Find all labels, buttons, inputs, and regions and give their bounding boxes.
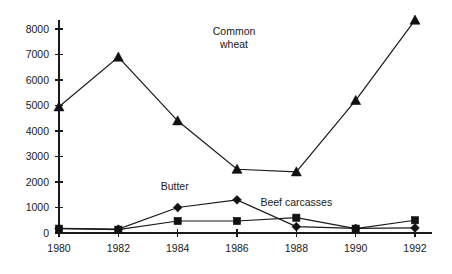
datapoint-beef-carcasses-1982 (115, 226, 122, 233)
series-annotations: CommonwheatButterBeef carcasses (161, 25, 333, 208)
butter-label: Butter (161, 180, 190, 192)
datapoint-beef-carcasses-1988 (293, 214, 300, 221)
x-tick-label-1988: 1988 (285, 242, 309, 254)
y-tick-label-8000: 8000 (26, 23, 50, 35)
y-tick-label-0: 0 (43, 227, 49, 239)
y-tick-label-3000: 3000 (26, 150, 50, 162)
y-axis-ticks: 010002000300040005000600070008000 (26, 23, 63, 239)
datapoint-butter-1988 (292, 222, 301, 231)
x-tick-label-1984: 1984 (166, 242, 190, 254)
beef-carcasses-label: Beef carcasses (260, 196, 332, 208)
datapoint-common-wheat-1982 (113, 52, 123, 61)
y-tick-label-6000: 6000 (26, 74, 50, 86)
datapoint-beef-carcasses-1986 (233, 217, 240, 224)
common-wheat-label: Common (213, 25, 256, 37)
datapoint-common-wheat-1990 (351, 95, 361, 104)
y-tick-label-7000: 7000 (26, 48, 50, 60)
y-tick-label-2000: 2000 (26, 176, 50, 188)
line-chart: 010002000300040005000600070008000 198019… (0, 0, 452, 274)
y-tick-label-1000: 1000 (26, 201, 50, 213)
x-tick-label-1992: 1992 (403, 242, 427, 254)
chart-container: 010002000300040005000600070008000 198019… (0, 0, 452, 274)
datapoint-beef-carcasses-1990 (352, 225, 359, 232)
y-tick-label-4000: 4000 (26, 125, 50, 137)
common-wheat-label-line2: wheat (219, 38, 248, 50)
datapoint-butter-1984 (173, 203, 182, 212)
x-tick-label-1990: 1990 (344, 242, 368, 254)
datapoint-butter-1986 (233, 195, 242, 204)
x-tick-label-1980: 1980 (47, 242, 71, 254)
datapoint-butter-1992 (411, 224, 420, 233)
datapoint-beef-carcasses-1984 (174, 217, 181, 224)
datapoint-common-wheat-1992 (410, 15, 420, 24)
datapoint-beef-carcasses-1992 (411, 217, 418, 224)
datapoint-beef-carcasses-1980 (55, 225, 62, 232)
x-tick-label-1986: 1986 (225, 242, 249, 254)
y-tick-label-5000: 5000 (26, 99, 50, 111)
x-tick-label-1982: 1982 (107, 242, 131, 254)
